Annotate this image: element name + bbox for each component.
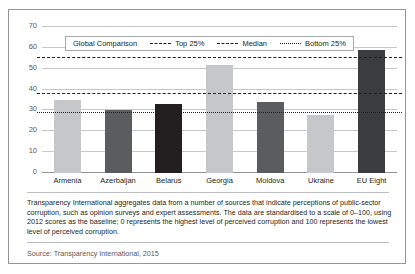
x-axis-label-azerbaijan: Azerbaijan [93,176,144,185]
note-divider-top [27,192,389,193]
y-axis-tick-70: 70 [29,22,37,30]
reference-line-bottom25 [37,112,402,113]
legend-label-median: Median [242,39,267,48]
legend-swatch-bottom25-icon [280,43,301,44]
y-axis-tick-10: 10 [29,147,37,155]
note-divider-bottom [27,242,389,243]
y-axis-tick-0: 0 [33,168,37,176]
chart-source: Source: Transparency International, 2015 [27,249,393,259]
clipped-caption [8,0,408,4]
bar-ukraine[interactable] [307,115,334,173]
y-axis-tick-40: 40 [29,85,37,93]
chart-legend: Global Comparison Top 25% Median Bottom … [65,36,354,51]
legend-item-median: Median [217,39,267,48]
x-axis-label-eu-eight: EU Eight [346,176,397,185]
legend-item-top25: Top 25% [150,39,204,48]
bar-slot [346,27,397,173]
legend-swatch-top25-icon [150,43,171,44]
chart-frame: 010203040506070 Global Comparison Top 25… [8,9,406,264]
bar-moldova[interactable] [257,102,284,173]
reference-line-top25 [37,57,402,58]
chart-note: Transparency International aggregates da… [27,198,393,236]
y-axis-tick-60: 60 [29,43,37,51]
x-axis-label-ukraine: Ukraine [296,176,347,185]
legend-item-bottom25: Bottom 25% [280,39,346,48]
y-axis-tick-20: 20 [29,127,37,135]
x-axis-label-armenia: Armenia [42,176,93,185]
legend-title: Global Comparison [73,39,137,48]
legend-swatch-median-icon [217,43,238,44]
legend-label-top25: Top 25% [175,39,204,48]
x-axis-label-georgia: Georgia [194,176,245,185]
x-axis-labels: ArmeniaAzerbaijanBelarusGeorgiaMoldovaUk… [42,176,397,185]
bar-georgia[interactable] [206,65,233,173]
x-axis-label-belarus: Belarus [143,176,194,185]
figure-container: 010203040506070 Global Comparison Top 25… [0,0,415,274]
bar-belarus[interactable] [155,104,182,173]
bar-azerbaijan[interactable] [105,110,132,173]
reference-line-median [37,93,402,94]
y-axis-tick-50: 50 [29,64,37,72]
y-axis-tick-30: 30 [29,106,37,114]
x-axis-label-moldova: Moldova [245,176,296,185]
legend-label-bottom25: Bottom 25% [305,39,346,48]
